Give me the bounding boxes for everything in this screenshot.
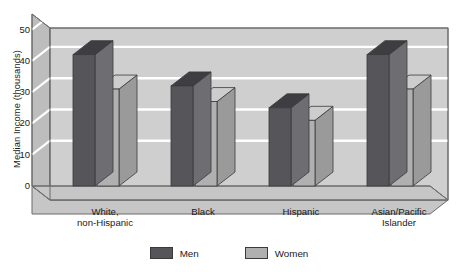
bar-front-face — [269, 108, 291, 186]
median-income-bar-chart: Median Income (thousands) 50403020100 Wh… — [0, 0, 458, 272]
bar-side-face — [217, 88, 235, 186]
legend-label: Men — [180, 248, 199, 259]
y-tick-label: 50 — [8, 25, 30, 35]
plot-svg — [32, 14, 448, 214]
bar-side-face — [95, 41, 113, 186]
x-category-label-3: Asian/Pacific Islander — [344, 206, 454, 229]
legend-swatch-icon — [150, 247, 173, 259]
chart-legend: MenWomen — [0, 242, 458, 264]
legend-label: Women — [275, 248, 309, 259]
x-category-label-1: Black — [148, 206, 258, 217]
bar-men-2 — [269, 94, 309, 186]
y-tick-label: 10 — [8, 150, 30, 160]
x-category-label-0: White, non-Hispanic — [50, 206, 160, 229]
bar-side-face — [193, 72, 211, 186]
bar-side-face — [389, 41, 407, 186]
left-wall-3d — [32, 14, 50, 200]
bar-front-face — [171, 86, 193, 186]
plot-area — [32, 14, 448, 214]
bar-front-face — [367, 55, 389, 186]
legend-entry-men: Men — [150, 247, 199, 259]
y-tick-label: 40 — [8, 56, 30, 66]
y-axis-tick-labels: 50403020100 — [6, 0, 30, 272]
bar-side-face — [119, 75, 137, 186]
bar-front-face — [73, 55, 95, 186]
y-tick-label: 20 — [8, 118, 30, 128]
bar-men-0 — [73, 41, 113, 186]
plot-floor-surface — [32, 186, 448, 200]
bar-men-3 — [367, 41, 407, 186]
bar-side-face — [291, 94, 309, 186]
y-tick-label: 0 — [8, 181, 30, 191]
bar-side-face — [413, 75, 431, 186]
bar-men-1 — [171, 72, 211, 186]
x-axis-category-labels: White, non-HispanicBlackHispanicAsian/Pa… — [32, 206, 448, 242]
legend-entry-women: Women — [245, 247, 309, 259]
y-tick-label: 30 — [8, 87, 30, 97]
legend-swatch-icon — [245, 247, 268, 259]
x-category-label-2: Hispanic — [246, 206, 356, 217]
